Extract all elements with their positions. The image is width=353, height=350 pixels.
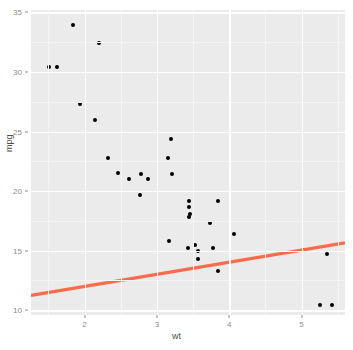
gridline-minor-horizontal [31, 161, 345, 162]
gridline-minor-vertical [265, 10, 266, 315]
x-tick-mark [301, 315, 302, 318]
x-tick-label: 3 [155, 320, 159, 329]
y-tick-mark [25, 71, 28, 72]
data-point [187, 215, 191, 219]
data-point [325, 252, 329, 256]
data-point [55, 65, 59, 69]
data-point [169, 137, 173, 141]
y-tick-label: 20 [0, 187, 22, 196]
data-point [216, 199, 220, 203]
gridline-major-vertical [229, 10, 230, 315]
x-tick-label: 2 [82, 320, 86, 329]
x-tick-mark [84, 315, 85, 318]
y-tick-label: 15 [0, 246, 22, 255]
scatter-plot-chart: mpg 101520253035 2345 wt [0, 0, 353, 350]
y-tick-mark [25, 12, 28, 13]
y-tick-mark [25, 250, 28, 251]
gridline-minor-horizontal [31, 280, 345, 281]
gridline-major-vertical [157, 10, 158, 315]
trend-line [31, 10, 345, 315]
gridline-minor-horizontal [31, 42, 345, 43]
y-tick-label: 35 [0, 8, 22, 17]
y-tick-label: 25 [0, 127, 22, 136]
gridline-major-horizontal [31, 251, 345, 252]
y-tick-label: 30 [0, 67, 22, 76]
data-point [139, 172, 143, 176]
gridline-minor-horizontal [31, 221, 345, 222]
data-point [127, 177, 131, 181]
x-tick-mark [229, 315, 230, 318]
data-point [93, 118, 97, 122]
y-axis-ticks: 101520253035 [0, 0, 22, 350]
data-point [78, 102, 82, 106]
y-tick-mark [25, 191, 28, 192]
data-point [166, 156, 170, 160]
data-point [232, 232, 236, 236]
gridline-major-horizontal [31, 310, 345, 311]
gridline-major-vertical [85, 10, 86, 315]
plot-panel [31, 10, 345, 315]
gridline-major-horizontal [31, 132, 345, 133]
data-point [196, 257, 200, 261]
gridline-minor-vertical [193, 10, 194, 315]
data-point [170, 172, 174, 176]
y-tick-label: 10 [0, 306, 22, 315]
data-point [318, 303, 322, 307]
data-point [330, 303, 334, 307]
data-point [116, 171, 120, 175]
x-tick-mark [156, 315, 157, 318]
data-point [146, 177, 150, 181]
data-point [187, 199, 191, 203]
data-point [71, 23, 75, 27]
data-point [216, 269, 220, 273]
data-point [138, 193, 142, 197]
gridline-major-vertical [302, 10, 303, 315]
y-tick-mark [25, 310, 28, 311]
data-point [208, 221, 212, 225]
gridline-major-horizontal [31, 12, 345, 13]
data-point [187, 205, 191, 209]
y-tick-mark [25, 131, 28, 132]
x-axis-title: wt [0, 331, 353, 341]
gridline-minor-vertical [48, 10, 49, 315]
gridline-minor-horizontal [31, 102, 345, 103]
gridline-minor-vertical [338, 10, 339, 315]
data-point [167, 239, 171, 243]
x-tick-label: 4 [227, 320, 231, 329]
gridline-major-horizontal [31, 72, 345, 73]
x-tick-label: 5 [299, 320, 303, 329]
data-point [106, 156, 110, 160]
gridline-major-horizontal [31, 191, 345, 192]
gridline-minor-vertical [121, 10, 122, 315]
